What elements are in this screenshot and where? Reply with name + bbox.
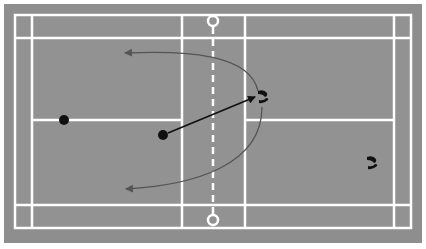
net-post-bottom (208, 215, 218, 225)
player-1-dot (59, 115, 69, 125)
player-2-dot (158, 130, 168, 140)
badminton-court-diagram (0, 0, 426, 249)
net-post-top (208, 16, 218, 26)
